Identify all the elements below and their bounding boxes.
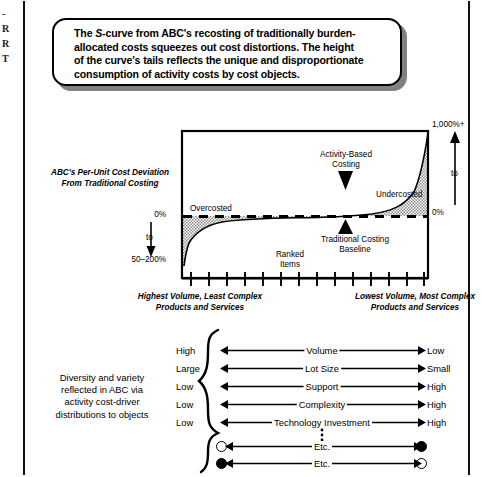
matrix-row-label: Technology Investment <box>272 417 372 428</box>
matrix-marker-filled <box>416 441 427 452</box>
matrix-caption-line4: distributions to objects <box>56 409 149 420</box>
matrix-marker-open <box>216 441 227 452</box>
matrix-row-label: Complexity <box>297 399 347 410</box>
diversity-matrix-text-layer: Diversity and variety reflected in ABC v… <box>0 0 482 477</box>
matrix-marker-open <box>416 458 427 469</box>
matrix-row-label: Support <box>304 381 341 392</box>
matrix-row-right-value: Low <box>427 345 482 356</box>
matrix-caption-line2: reflected in ABC via <box>61 384 143 395</box>
matrix-row-label: Etc. <box>312 458 332 469</box>
matrix-row-label: Volume <box>304 345 339 356</box>
matrix-caption-line1: Diversity and variety <box>60 372 144 383</box>
matrix-row-left-value: High <box>176 345 220 356</box>
matrix-row-left-value: Low <box>176 381 220 392</box>
matrix-row-left-value: Large <box>176 363 220 374</box>
matrix-row-left-value: Low <box>176 399 220 410</box>
matrix-row-right-value: High <box>427 399 482 410</box>
matrix-row-right-value: High <box>427 417 482 428</box>
matrix-caption: Diversity and variety reflected in ABC v… <box>22 372 182 421</box>
matrix-marker-filled <box>216 458 227 469</box>
matrix-caption-line3: activity cost-driver <box>64 396 139 407</box>
matrix-row-label: Etc. <box>312 441 332 452</box>
matrix-row-label: Lot Size <box>303 363 341 374</box>
matrix-row-right-value: Small <box>427 363 482 374</box>
matrix-row-left-value: Low <box>176 417 220 428</box>
matrix-row-right-value: High <box>427 381 482 392</box>
